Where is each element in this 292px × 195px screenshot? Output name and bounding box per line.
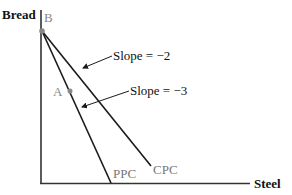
point-a-label: A	[53, 84, 63, 99]
ppc-cpc-diagram: Bread Steel B A PPC CPC Slope = −2 Slope…	[0, 0, 292, 195]
x-axis-label: Steel	[254, 176, 281, 191]
ppc-line	[42, 31, 111, 183]
slope-ppc-arrow	[82, 91, 129, 107]
slope-cpc-label: Slope = −2	[113, 48, 170, 63]
cpc-label: CPC	[153, 162, 178, 177]
point-a	[68, 89, 73, 94]
point-b-label: B	[44, 10, 53, 25]
ppc-label: PPC	[113, 166, 136, 181]
slope-cpc-arrow	[83, 56, 112, 68]
point-b	[39, 28, 45, 34]
slope-ppc-label: Slope = −3	[130, 83, 187, 98]
y-axis-label: Bread	[2, 7, 36, 22]
